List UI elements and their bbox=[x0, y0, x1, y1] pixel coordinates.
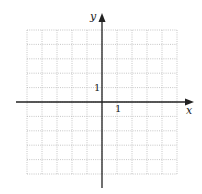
y-unit-tick-label: 1 bbox=[94, 83, 100, 93]
y-axis-arrow-icon bbox=[99, 13, 106, 22]
x-unit-tick-label: 1 bbox=[115, 104, 121, 114]
grid-svg bbox=[0, 0, 202, 194]
coordinate-plane: y x 1 1 bbox=[0, 0, 202, 194]
y-axis-label: y bbox=[90, 11, 96, 22]
x-axis-label: x bbox=[186, 105, 192, 116]
axes bbox=[16, 13, 194, 188]
